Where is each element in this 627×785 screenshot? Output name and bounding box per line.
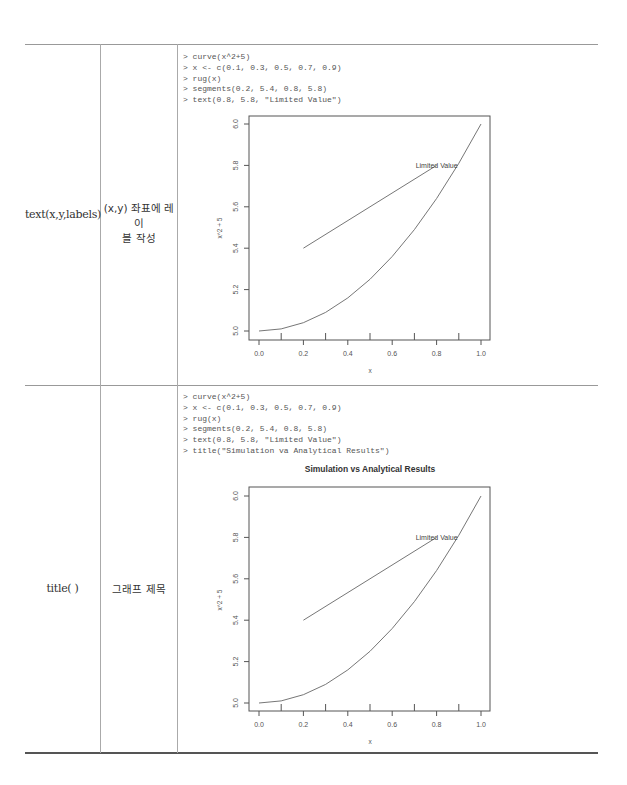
x-tick-label: 0.8 (432, 721, 442, 728)
x-tick-label: 0.0 (254, 350, 264, 357)
code-line: > rug(x) (183, 74, 341, 85)
code-line: > rug(x) (183, 414, 389, 425)
annotation-label: Limited Value (416, 534, 458, 541)
x-tick-label: 1.0 (476, 721, 486, 728)
description-line: 그래프 제목 (101, 582, 177, 597)
plot-frame (249, 487, 490, 711)
x-tick-label: 1.0 (476, 350, 486, 357)
y-axis-label: x^2 + 5 (216, 589, 223, 610)
plot-title: Simulation vs Analytical Results 5.0 5.2… (178, 460, 598, 750)
curve-line (259, 496, 481, 703)
table-row-divider (25, 385, 598, 386)
y-axis (244, 124, 249, 331)
x-tick-label: 0.2 (299, 350, 309, 357)
x-tick-label: 0.8 (432, 350, 442, 357)
description-line: (x,y) 좌표에 레이 (101, 201, 177, 231)
y-tick-label: 5.4 (232, 243, 239, 253)
y-axis-label: x^2 + 5 (216, 217, 223, 238)
function-description-text: (x,y) 좌표에 레이 블 작성 (101, 201, 177, 246)
column-divider-1 (100, 44, 101, 753)
r-code-block-text: > curve(x^2+5)> x <- c(0.1, 0.3, 0.5, 0.… (183, 392, 389, 457)
code-line: > segments(0.2, 5.4, 0.8, 5.8) (183, 84, 341, 95)
table-top-rule (25, 44, 598, 45)
rug-marks (281, 333, 459, 340)
rug-marks (281, 704, 459, 711)
y-tick-label: 5.2 (232, 657, 239, 667)
code-line: > curve(x^2+5) (183, 52, 341, 63)
y-tick-label: 5.0 (232, 326, 239, 336)
code-line: > text(0.8, 5.8, "Limited Value") (183, 95, 341, 106)
annotation-label: Limited Value (416, 162, 458, 169)
y-tick-label: 6.0 (232, 119, 239, 129)
y-tick-label: 5.8 (232, 160, 239, 170)
plot-frame (249, 116, 490, 340)
x-axis (259, 711, 481, 716)
function-name-text: title( ) (25, 582, 100, 595)
x-axis-label: x (368, 367, 372, 374)
description-line: 블 작성 (101, 231, 177, 246)
y-tick-label: 5.2 (232, 285, 239, 295)
x-tick-label: 0.6 (387, 721, 397, 728)
y-tick-label: 5.0 (232, 698, 239, 708)
code-line: > segments(0.2, 5.4, 0.8, 5.8) (183, 424, 389, 435)
code-line: > x <- c(0.1, 0.3, 0.5, 0.7, 0.9) (183, 63, 341, 74)
y-tick-label: 5.4 (232, 615, 239, 625)
function-description-text: 그래프 제목 (101, 582, 177, 597)
x-tick-label: 0.4 (343, 350, 353, 357)
table-bottom-rule (25, 752, 598, 754)
x-tick-label: 0.6 (387, 350, 397, 357)
x-tick-label: 0.4 (343, 721, 353, 728)
y-tick-label: 6.0 (232, 491, 239, 501)
plot-title-text: Simulation vs Analytical Results (305, 464, 436, 474)
code-line: > text(0.8, 5.8, "Limited Value") (183, 435, 389, 446)
code-line: > curve(x^2+5) (183, 392, 389, 403)
code-line: > x <- c(0.1, 0.3, 0.5, 0.7, 0.9) (183, 403, 389, 414)
y-tick-label: 5.8 (232, 532, 239, 542)
y-tick-label: 5.6 (232, 574, 239, 584)
x-axis (259, 340, 481, 345)
x-tick-label: 0.2 (299, 721, 309, 728)
segment-line (303, 537, 436, 620)
r-code-block-text: > curve(x^2+5)> x <- c(0.1, 0.3, 0.5, 0.… (183, 52, 341, 106)
curve-line (259, 124, 481, 331)
y-axis (244, 496, 249, 703)
plot-text: 5.0 5.2 5.4 5.6 5.8 6.0 x^2 + 5 0.0 0.2 … (178, 108, 598, 378)
function-name-text: text(x,y,labels) (25, 208, 100, 221)
code-line: > title("Simulation va Analytical Result… (183, 446, 389, 457)
x-tick-label: 0.0 (254, 721, 264, 728)
x-axis-label: x (368, 738, 372, 745)
y-tick-label: 5.6 (232, 202, 239, 212)
segment-line (303, 165, 436, 248)
